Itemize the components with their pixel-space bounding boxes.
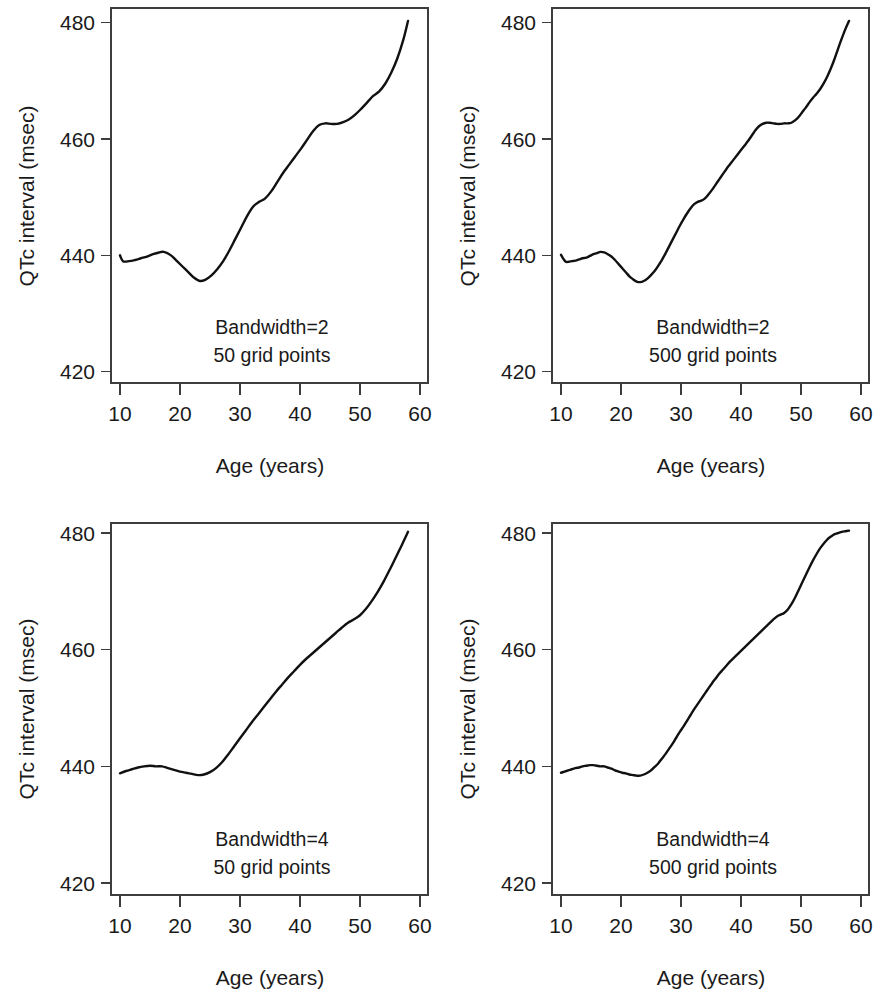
x-tick-label-10: 10 <box>108 914 131 937</box>
y-tick-label-480: 480 <box>501 11 536 34</box>
x-axis-bottom-left: 10 20 30 40 50 60 <box>108 895 431 937</box>
y-tick-label-460: 460 <box>60 638 95 661</box>
x-tick-label-20: 20 <box>609 914 632 937</box>
x-tick-label-60: 60 <box>408 402 431 425</box>
panel-top-right-svg: 480 460 440 420 10 20 30 40 50 60 Age (y… <box>441 0 882 501</box>
annotation-grid-points: 50 grid points <box>213 344 330 366</box>
qtc-curve <box>120 21 408 281</box>
y-tick-label-460: 460 <box>501 638 536 661</box>
y-tick-label-440: 440 <box>501 755 536 778</box>
qtc-curve <box>561 21 849 282</box>
qtc-curve <box>120 532 408 775</box>
annotation-bandwidth: Bandwidth=4 <box>215 828 328 850</box>
annotation-bandwidth: Bandwidth=2 <box>215 316 328 338</box>
y-axis-title: QTc interval (msec) <box>456 619 479 800</box>
y-axis-top-left: 480 460 440 420 <box>60 11 111 383</box>
x-tick-label-30: 30 <box>669 402 692 425</box>
y-tick-label-480: 480 <box>60 11 95 34</box>
panel-top-left: 480 460 440 420 10 20 30 40 50 60 Age (y… <box>0 0 441 501</box>
panel-bottom-right-svg: 480 460 440 420 10 20 30 40 50 60 Age (y… <box>441 501 882 1003</box>
panel-bottom-left-svg: 480 460 440 420 10 20 30 40 50 60 Age (y… <box>0 501 441 1003</box>
annotation-bandwidth: Bandwidth=2 <box>656 316 769 338</box>
y-tick-label-420: 420 <box>60 360 95 383</box>
x-tick-label-20: 20 <box>168 402 191 425</box>
qtc-curve <box>561 531 849 776</box>
y-tick-label-420: 420 <box>501 360 536 383</box>
x-tick-label-40: 40 <box>288 914 311 937</box>
qtc-smoothing-figure: 480 460 440 420 10 20 30 40 50 60 Age (y… <box>0 0 882 1003</box>
x-axis-title: Age (years) <box>216 966 325 989</box>
x-tick-label-40: 40 <box>288 402 311 425</box>
x-tick-label-50: 50 <box>348 914 371 937</box>
y-tick-label-420: 420 <box>60 872 95 895</box>
x-tick-label-40: 40 <box>729 402 752 425</box>
annotation-grid-points: 500 grid points <box>649 856 777 878</box>
annotation-grid-points: 50 grid points <box>213 856 330 878</box>
x-tick-label-50: 50 <box>789 914 812 937</box>
x-tick-label-10: 10 <box>549 402 572 425</box>
x-axis-top-right: 10 20 30 40 50 60 <box>549 383 872 425</box>
y-tick-label-460: 460 <box>60 128 95 151</box>
x-axis-bottom-right: 10 20 30 40 50 60 <box>549 895 872 937</box>
x-tick-label-40: 40 <box>729 914 752 937</box>
x-tick-label-50: 50 <box>348 402 371 425</box>
x-tick-label-30: 30 <box>669 914 692 937</box>
x-tick-label-30: 30 <box>228 914 251 937</box>
y-axis-title: QTc interval (msec) <box>15 619 38 800</box>
x-tick-label-10: 10 <box>108 402 131 425</box>
x-axis-title: Age (years) <box>657 454 766 477</box>
panel-top-left-svg: 480 460 440 420 10 20 30 40 50 60 Age (y… <box>0 0 441 501</box>
x-tick-label-60: 60 <box>408 914 431 937</box>
annotation-bandwidth: Bandwidth=4 <box>656 828 769 850</box>
y-axis-bottom-right: 480 460 440 420 <box>501 522 552 895</box>
y-axis-top-right: 480 460 440 420 <box>501 11 552 383</box>
panel-bottom-left: 480 460 440 420 10 20 30 40 50 60 Age (y… <box>0 501 441 1002</box>
y-tick-label-420: 420 <box>501 872 536 895</box>
y-tick-label-440: 440 <box>60 755 95 778</box>
y-tick-label-480: 480 <box>501 522 536 545</box>
x-axis-title: Age (years) <box>216 454 325 477</box>
y-tick-label-480: 480 <box>60 522 95 545</box>
y-axis-title: QTc interval (msec) <box>15 106 38 287</box>
x-tick-label-60: 60 <box>849 914 872 937</box>
x-tick-label-60: 60 <box>849 402 872 425</box>
y-tick-label-460: 460 <box>501 128 536 151</box>
y-axis-title: QTc interval (msec) <box>456 106 479 287</box>
x-tick-label-50: 50 <box>789 402 812 425</box>
x-tick-label-20: 20 <box>168 914 191 937</box>
panel-top-right: 480 460 440 420 10 20 30 40 50 60 Age (y… <box>441 0 882 501</box>
y-tick-label-440: 440 <box>501 244 536 267</box>
y-axis-bottom-left: 480 460 440 420 <box>60 522 111 895</box>
x-axis-title: Age (years) <box>657 966 766 989</box>
annotation-grid-points: 500 grid points <box>649 344 777 366</box>
panel-bottom-right: 480 460 440 420 10 20 30 40 50 60 Age (y… <box>441 501 882 1002</box>
x-tick-label-20: 20 <box>609 402 632 425</box>
y-tick-label-440: 440 <box>60 244 95 267</box>
x-axis-top-left: 10 20 30 40 50 60 <box>108 383 431 425</box>
x-tick-label-10: 10 <box>549 914 572 937</box>
x-tick-label-30: 30 <box>228 402 251 425</box>
